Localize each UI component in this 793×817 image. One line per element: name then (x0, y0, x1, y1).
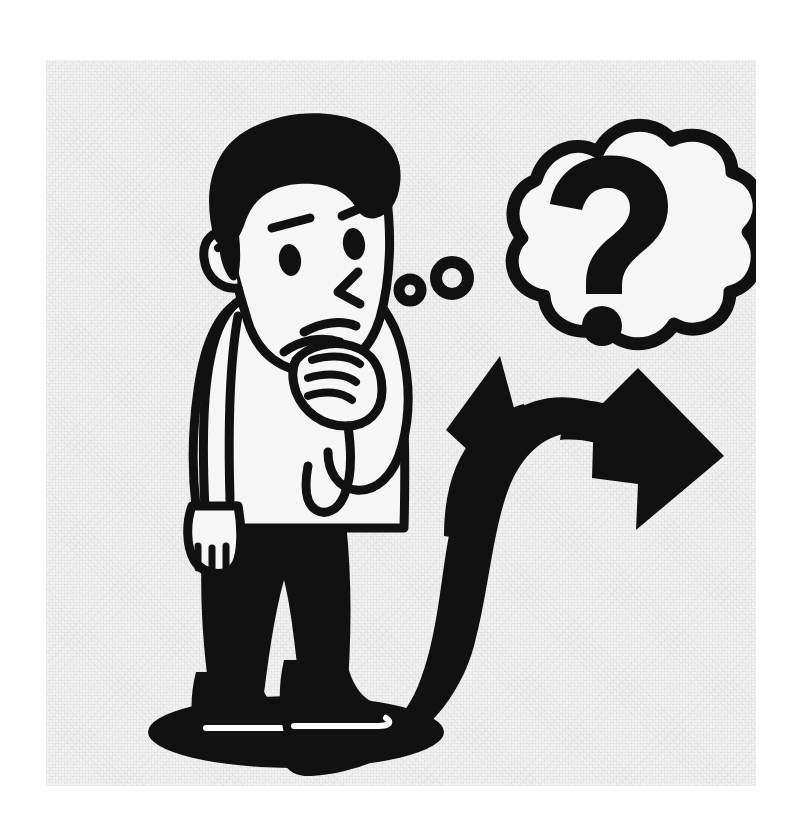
bubble-dot-2 (436, 262, 468, 294)
character (188, 113, 408, 742)
thought-bubble (399, 125, 756, 346)
arrowhead-right-icon (592, 368, 724, 530)
illustration-panel: Thinking man facing a forked decision ar… (46, 60, 756, 786)
question-mark-dot (582, 306, 622, 346)
shoes (192, 660, 406, 742)
bubble-dot-1 (399, 279, 421, 301)
illustration-canvas: Thinking man facing a forked decision ar… (0, 0, 793, 817)
hand-side (188, 506, 241, 573)
thinking-man-illustration (46, 60, 756, 786)
